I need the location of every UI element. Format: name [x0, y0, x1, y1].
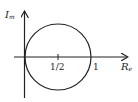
imaginary-axis-label: Im: [4, 9, 15, 20]
tick-label-one: 1: [93, 62, 99, 72]
real-axis-label: Re: [120, 61, 133, 72]
complex-plane-diagram: Im Re 1/2 1: [0, 0, 138, 102]
tick-label-half: 1/2: [50, 62, 64, 72]
